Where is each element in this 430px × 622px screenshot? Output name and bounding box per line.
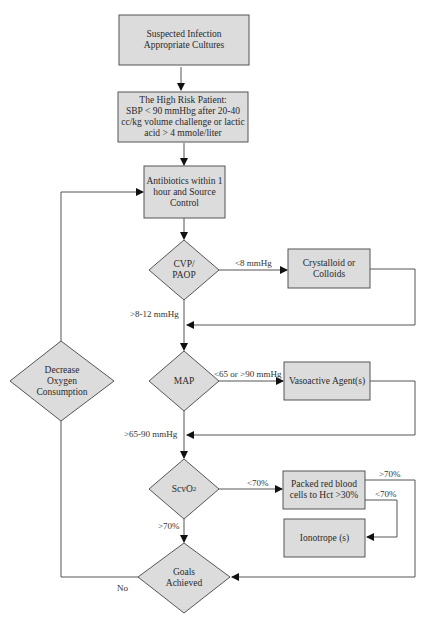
label-vasoactive: Vasoactive Agent(s) (284, 362, 370, 400)
label-line: Appropriate Cultures (144, 40, 224, 51)
label-line: Oxygen (47, 376, 77, 387)
label-line: cc/kg volume challenge or lactic (121, 117, 244, 128)
edge-label-cvp-low: <8 mmHg (235, 258, 272, 268)
label-line: Decrease (45, 365, 80, 376)
label-main: ScvO (172, 484, 193, 495)
label-line: Goals (173, 567, 195, 578)
label-line: SBP < 90 mmHbg after 20-40 (126, 106, 240, 117)
label-line: The High Risk Patient: (139, 95, 226, 106)
label-packed-rbc: Packed red blood cells to Hct >30% (283, 471, 365, 509)
label-line: Antibiotics within 1 (147, 176, 223, 187)
edge-label-scvo2-high: >70% (158, 521, 180, 531)
label-line: hour and Source (153, 187, 215, 198)
label-line: Colloids (313, 269, 345, 280)
label-suspected-infection: Suspected Infection Appropriate Cultures (119, 15, 249, 65)
label-cvp-paop: CVP/ PAOP (149, 240, 219, 300)
label-crystalloid: Crystalloid or Colloids (288, 249, 370, 288)
label-line: acid > 4 mmole/liter (144, 128, 221, 139)
edge-label-scvo2-low: <70% (247, 478, 269, 488)
label-line: Ionotrope (s) (300, 533, 349, 544)
label-line: PAOP (172, 270, 195, 281)
label-ionotrope: Ionotrope (s) (284, 519, 365, 557)
label-line: Control (170, 198, 199, 209)
label-line: MAP (174, 376, 195, 387)
label-line: Consumption (36, 387, 87, 398)
label-high-risk-patient: The High Risk Patient: SBP < 90 mmHbg af… (118, 92, 248, 142)
label-line: cells to Hct >30% (290, 490, 358, 501)
label-line: Vasoactive Agent(s) (289, 376, 365, 387)
label-line: Achieved (166, 578, 202, 589)
label-scvo2: ScvO2 (149, 459, 219, 519)
label-map: MAP (149, 351, 219, 411)
edge-label-cvp-normal: >8-12 mmHg (130, 309, 179, 319)
label-line: Packed red blood (291, 479, 357, 490)
label-line: Suspected Infection (146, 29, 221, 40)
label-subscript: 2 (193, 484, 197, 495)
edge-goals-to-decrease (61, 421, 138, 577)
label-line: Crystalloid or (303, 258, 356, 269)
edge-label-packed-high: >70% (379, 469, 401, 479)
label-goals-achieved: Goals Achieved (138, 543, 230, 613)
edge-label-goals-no: No (117, 583, 128, 593)
label-antibiotics: Antibiotics within 1 hour and Source Con… (144, 166, 225, 218)
edge-label-map-normal: >65-90 mmHg (124, 429, 177, 439)
label-line: CVP/ (173, 259, 194, 270)
label-decrease-oxygen: Decrease Oxygen Consumption (10, 341, 114, 421)
edge-label-map-abnormal: <65 or >90 mmHg (214, 369, 281, 379)
edge-label-packed-low: <70% (375, 489, 397, 499)
edge-packed-to-ionotrope (365, 500, 397, 537)
